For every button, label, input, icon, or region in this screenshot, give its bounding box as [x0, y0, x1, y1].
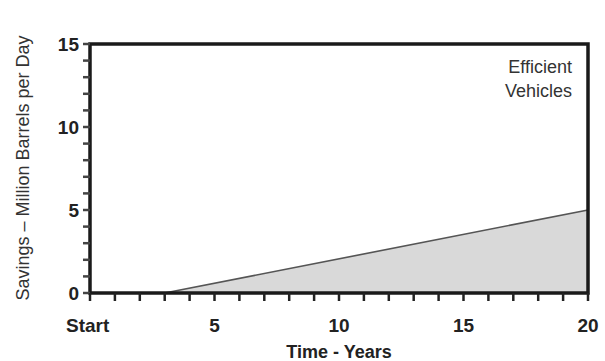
x-tick-label: 15 [453, 315, 475, 336]
x-axis-ticks [90, 293, 588, 301]
y-tick-label: 10 [58, 117, 79, 138]
y-axis-title: Savings – Million Barrels per Day [13, 35, 33, 300]
annotation-line: Vehicles [505, 81, 572, 101]
chart: Savings – Million Barrels per Day 051015… [0, 0, 605, 361]
y-axis-tick-labels: 051015 [58, 34, 80, 304]
area-series-efficient-vehicles [90, 210, 588, 293]
y-tick-label: 15 [58, 34, 80, 55]
y-tick-label: 5 [68, 200, 79, 221]
y-tick-label: 0 [68, 283, 79, 304]
area-fill [90, 210, 588, 293]
x-tick-label: 5 [209, 315, 220, 336]
x-tick-label: 10 [328, 315, 349, 336]
x-axis-title: Time - Years [286, 342, 391, 361]
annotation-line: Efficient [508, 57, 572, 77]
x-axis-tick-labels: Start5101520 [66, 315, 599, 336]
x-tick-label: Start [66, 315, 110, 336]
y-axis-title-text: Savings – Million Barrels per Day [13, 35, 33, 300]
x-tick-label: 20 [577, 315, 598, 336]
series-annotation: EfficientVehicles [505, 57, 572, 101]
